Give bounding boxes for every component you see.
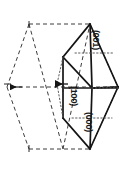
plane-label-top: (001) bbox=[91, 30, 101, 50]
crystal-diagram-svg: (001) (100) (000) bbox=[0, 0, 127, 172]
crystal-unit-cell-figure: (001) (100) (000) bbox=[0, 0, 127, 172]
plane-label-bottom: (000) bbox=[84, 112, 94, 132]
plane-label-middle: (100) bbox=[69, 86, 79, 106]
